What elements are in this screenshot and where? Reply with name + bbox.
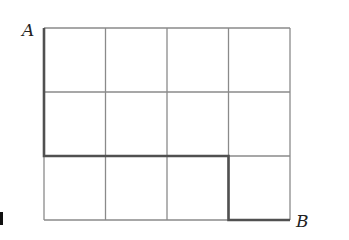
grid-path-diagram: A B	[0, 0, 349, 240]
grid-lines	[44, 28, 290, 220]
point-a-label: A	[20, 20, 34, 40]
edge-marker	[0, 212, 3, 225]
point-b-label: B	[295, 211, 309, 231]
